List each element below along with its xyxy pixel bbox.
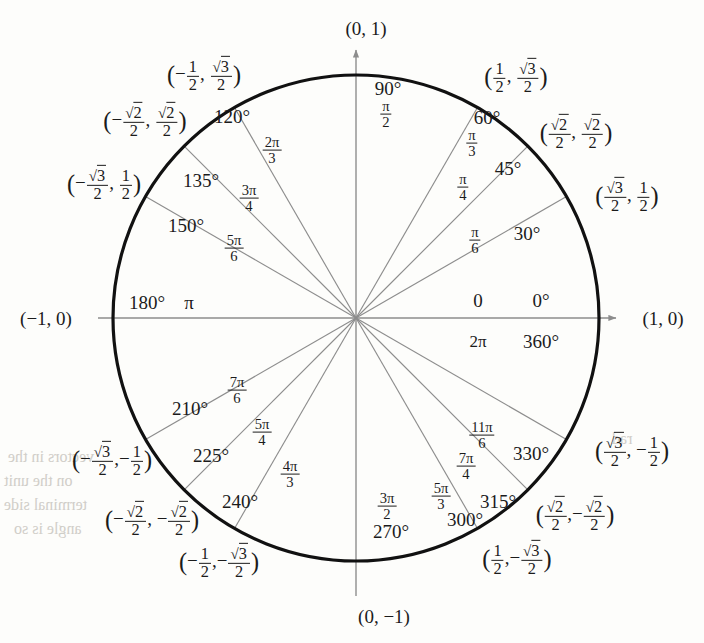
coordinate-fraction: −√22 bbox=[157, 508, 191, 529]
axis-label-left: (−1, 0) bbox=[20, 309, 72, 328]
minus-sign: − bbox=[80, 448, 91, 469]
radical-icon: √2 bbox=[584, 117, 601, 134]
coordinate-label-135: (−√22, √22) bbox=[103, 105, 186, 139]
minus-sign: − bbox=[636, 439, 647, 460]
coordinate-fraction: −√22 bbox=[111, 109, 145, 130]
coordinate-fraction: −√32 bbox=[217, 550, 251, 571]
radical-icon: √3 bbox=[523, 543, 540, 560]
degree-label-30: 30° bbox=[514, 224, 541, 243]
axis-label-top: (0, 1) bbox=[345, 19, 386, 38]
coordinate-label-330: (√32, −12) bbox=[595, 435, 669, 469]
coordinate-fraction: √22 bbox=[544, 503, 567, 524]
minus-sign: − bbox=[175, 63, 186, 84]
coordinate-label-150: (−√32, 12) bbox=[67, 168, 141, 202]
radian-label-270: 3π2 bbox=[377, 491, 398, 522]
radical-icon: √2 bbox=[586, 499, 603, 516]
radical-icon: √3 bbox=[89, 168, 106, 185]
coordinate-fraction: −√32 bbox=[509, 547, 543, 568]
coordinate-fraction: √32 bbox=[603, 184, 626, 205]
radian-label-90: π2 bbox=[379, 99, 392, 130]
minus-sign: − bbox=[157, 508, 168, 529]
coordinate-label-60: (12, √32) bbox=[484, 61, 547, 95]
degree-label-240: 240° bbox=[222, 492, 258, 511]
radian-label-135: 3π4 bbox=[239, 183, 260, 214]
radian-label-60: π3 bbox=[465, 128, 478, 159]
degree-label-150: 150° bbox=[168, 216, 204, 235]
radian-label-150: 5π6 bbox=[224, 233, 245, 264]
radical-icon: √3 bbox=[94, 444, 111, 461]
coordinate-fraction: 12 bbox=[490, 547, 504, 568]
axis-label-right: (1, 0) bbox=[642, 309, 683, 328]
coordinate-fraction: −12 bbox=[119, 448, 144, 469]
radical-icon: √3 bbox=[606, 435, 623, 452]
minus-sign: − bbox=[111, 109, 122, 130]
radian-label-210: 7π6 bbox=[227, 375, 248, 406]
radian-label-360: 2π bbox=[469, 333, 486, 350]
radian-label-330: 11π6 bbox=[468, 420, 495, 451]
degree-label-360: 360° bbox=[523, 332, 559, 351]
coordinate-fraction: −√22 bbox=[572, 503, 606, 524]
radical-icon: √2 bbox=[158, 105, 175, 122]
coordinate-label-120: (−12, √32) bbox=[167, 59, 241, 93]
coordinate-label-30: (√32, 12) bbox=[595, 180, 658, 214]
degree-label-210: 210° bbox=[172, 399, 208, 418]
degree-label-90: 90° bbox=[375, 79, 402, 98]
radical-icon: √3 bbox=[606, 180, 623, 197]
minus-sign: − bbox=[75, 172, 86, 193]
coordinate-label-315: (√22,−√22) bbox=[536, 499, 615, 533]
coordinate-label-225: (−√22, −√22) bbox=[105, 504, 199, 538]
coordinate-fraction: 12 bbox=[119, 172, 133, 193]
coordinate-label-210: (−√32,−12) bbox=[72, 444, 152, 478]
axis-label-bottom: (0, −1) bbox=[358, 607, 410, 626]
coordinate-fraction: −12 bbox=[187, 550, 212, 571]
degree-label-45: 45° bbox=[495, 159, 522, 178]
coordinate-fraction: −√22 bbox=[113, 508, 147, 529]
degree-label-0: 0° bbox=[532, 291, 549, 310]
unit-circle-svg bbox=[0, 0, 704, 643]
minus-sign: − bbox=[572, 503, 583, 524]
coordinate-label-240: (−12,−√32) bbox=[179, 546, 259, 580]
radian-label-0: 0 bbox=[473, 291, 483, 310]
radical-icon: √3 bbox=[519, 61, 536, 78]
degree-label-225: 225° bbox=[193, 446, 229, 465]
coordinate-fraction: −√32 bbox=[80, 448, 114, 469]
coordinate-fraction: −12 bbox=[175, 63, 200, 84]
minus-sign: − bbox=[217, 550, 228, 571]
coordinate-fraction: √22 bbox=[581, 121, 604, 142]
radical-icon: √3 bbox=[212, 59, 229, 76]
coordinate-fraction: √22 bbox=[155, 109, 178, 130]
coordinate-fraction: √32 bbox=[603, 439, 626, 460]
degree-label-300: 300° bbox=[447, 510, 483, 529]
coordinate-fraction: 12 bbox=[492, 65, 506, 86]
radical-icon: √2 bbox=[170, 504, 187, 521]
radian-label-240: 4π3 bbox=[280, 459, 301, 490]
radical-icon: √2 bbox=[551, 117, 568, 134]
degree-label-270: 270° bbox=[373, 522, 409, 541]
degree-label-315: 315° bbox=[480, 492, 516, 511]
minus-sign: − bbox=[113, 508, 124, 529]
radical-icon: √2 bbox=[547, 499, 564, 516]
coordinate-fraction: 12 bbox=[636, 184, 650, 205]
coordinate-fraction: √32 bbox=[209, 63, 232, 84]
radical-icon: √2 bbox=[127, 504, 144, 521]
degree-label-60: 60° bbox=[474, 108, 501, 127]
radical-icon: √3 bbox=[230, 546, 247, 563]
radian-label-30: π6 bbox=[468, 225, 481, 256]
radian-label-45: π4 bbox=[456, 172, 469, 203]
radian-label-180: π bbox=[184, 293, 194, 312]
degree-label-180: 180° bbox=[129, 293, 165, 312]
coordinate-label-45: (√22, √22) bbox=[540, 117, 613, 151]
degree-label-120: 120° bbox=[214, 107, 250, 126]
radian-label-225: 5π4 bbox=[252, 417, 273, 448]
radian-label-315: 7π4 bbox=[456, 451, 477, 482]
coordinate-label-300: (12,−√32) bbox=[482, 543, 551, 577]
radian-label-120: 2π3 bbox=[262, 135, 283, 166]
radian-label-300: 5π3 bbox=[431, 481, 452, 512]
radical-icon: √2 bbox=[125, 105, 142, 122]
minus-sign: − bbox=[509, 547, 520, 568]
coordinate-fraction: √22 bbox=[548, 121, 571, 142]
coordinate-fraction: −12 bbox=[636, 439, 661, 460]
coordinate-fraction: −√32 bbox=[75, 172, 109, 193]
minus-sign: − bbox=[119, 448, 130, 469]
unit-circle-figure: vectors in the on the unit terminal side… bbox=[0, 0, 704, 643]
